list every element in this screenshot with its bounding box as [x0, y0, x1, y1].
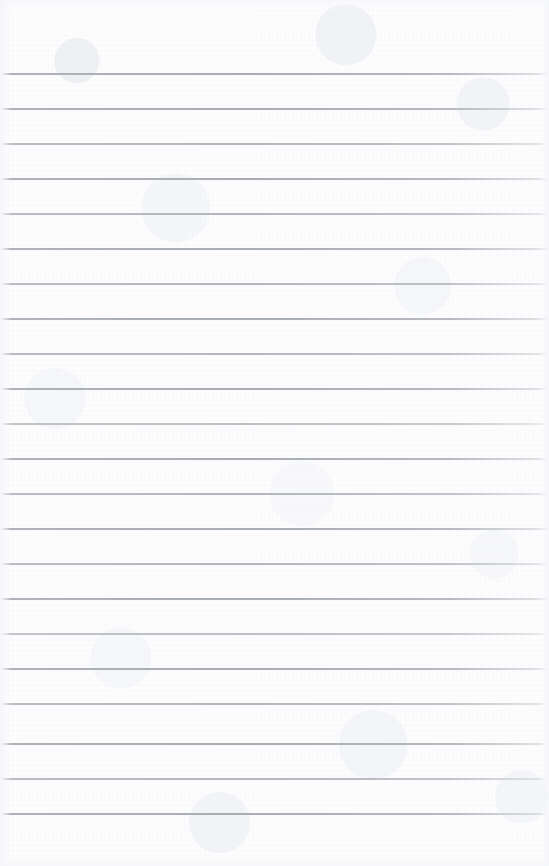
rule-line-9: [2, 353, 547, 355]
rule-line-2: [2, 108, 547, 110]
rule-line-19: [2, 703, 547, 705]
rule-line-14: [2, 528, 547, 530]
rule-line-18: [2, 668, 547, 670]
rule-line-1: [2, 73, 547, 75]
rule-line-22: [2, 813, 547, 815]
rule-line-12: [2, 458, 547, 460]
rule-line-6: [2, 248, 547, 250]
rule-line-10: [2, 388, 547, 390]
rule-line-3: [2, 143, 547, 145]
notepad-page: [0, 0, 549, 866]
rule-line-4: [2, 178, 547, 180]
rule-line-13: [2, 493, 547, 495]
rule-line-20: [2, 743, 547, 745]
rule-line-16: [2, 598, 547, 600]
rule-line-7: [2, 283, 547, 285]
rule-line-8: [2, 318, 547, 320]
rule-line-5: [2, 213, 547, 215]
rule-line-17: [2, 633, 547, 635]
rule-line-21: [2, 778, 547, 780]
rule-line-11: [2, 423, 547, 425]
rule-line-15: [2, 563, 547, 565]
ruled-line-layer: [0, 0, 549, 866]
